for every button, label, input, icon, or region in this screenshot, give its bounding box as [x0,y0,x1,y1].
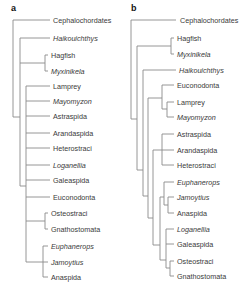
taxon-label: Heterostraci [53,144,92,153]
taxon-label: Hagfish [51,51,75,60]
taxon-label: Jamoytius [51,258,83,267]
cladogram-panel-b: b [126,0,252,290]
taxon-label: Loganellia [177,225,210,234]
taxon-label: Galeaspida [177,240,213,249]
taxon-label: Anaspida [51,273,81,282]
taxon-label: Haikouichthys [179,66,224,75]
taxon-label: Euphanerops [177,178,220,187]
cladogram-panel-a: a Cephalochordates Haikouichth [0,0,126,290]
taxon-label: Lamprey [177,98,205,107]
taxon-label: Loganellia [53,161,86,170]
taxon-label: Arandaspida [177,146,217,155]
taxon-label: Osteostraci [51,209,87,218]
taxon-label: Mayomyzon [177,113,216,122]
taxon-label: Jamoytius [177,193,209,202]
taxon-label: Arandaspida [53,129,93,138]
taxon-label: Mayomyzon [53,97,92,106]
taxon-label: Cephalochordates [180,16,238,25]
taxon-label: Anaspida [177,209,207,218]
taxon-label: Lamprey [53,82,81,91]
taxon-label: Osteostraci [177,257,213,266]
taxon-label: Euconodonta [177,81,219,90]
taxon-label: Gnathostomata [177,272,226,281]
taxon-label: Galeaspida [53,176,89,185]
taxon-label: Myxinikela [177,50,211,59]
taxon-label: Gnathostomata [51,225,100,234]
taxon-label: Hagfish [177,34,201,43]
taxon-label: Haikouichthys [53,34,98,43]
taxon-label: Cephalochordates [53,16,111,25]
taxon-label: Euphanerops [51,242,94,251]
taxon-label: Astraspida [177,130,211,139]
taxon-label: Myxinikela [51,67,85,76]
taxon-label: Euconodonta [53,193,95,202]
taxon-label: Astraspida [53,112,87,121]
taxon-label: Heterostraci [177,161,216,170]
